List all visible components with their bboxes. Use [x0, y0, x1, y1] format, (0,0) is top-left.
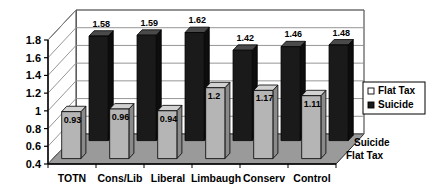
y-axis-tick-label: 1 [35, 105, 41, 117]
y-axis-tick-label: 0.4 [26, 158, 42, 170]
bar-side-face [177, 105, 182, 158]
depth-axis-label-flat-tax: Flat Tax [346, 150, 383, 161]
bar-value-label: 0.96 [112, 112, 130, 122]
bar-chart-3d: 0.40.60.811.21.41.61.81.581.591.621.421.… [0, 0, 443, 196]
y-axis-tick-label: 1.4 [26, 69, 42, 81]
x-axis-category-label: Liberal [151, 172, 186, 184]
bar-value-label: 1.42 [236, 33, 254, 43]
y-axis-tick-label: 0.8 [26, 123, 41, 135]
bar-side-face [225, 82, 230, 158]
x-axis-category-label: TOTN [58, 172, 86, 184]
legend-entry-label: Flat Tax [378, 85, 415, 96]
bar-value-label: 1.46 [284, 29, 302, 39]
bar-value-label: 1.48 [332, 28, 350, 38]
bar-front-face [233, 50, 252, 140]
legend-swatch-light-icon [368, 88, 374, 94]
bar-side-face [81, 106, 86, 158]
bar-value-label: 1.2 [208, 91, 221, 101]
bar-front-face [185, 33, 204, 141]
bar-side-face [321, 90, 326, 158]
bar-front-face [137, 35, 156, 140]
bar-value-label: 1.62 [188, 15, 206, 25]
bar-front-face [281, 47, 300, 141]
bar-side-face [129, 104, 134, 159]
y-axis-tick-label: 0.6 [26, 140, 41, 152]
bar-front-face [329, 45, 348, 141]
x-axis-category-label: Cons/Lib [98, 172, 143, 184]
bar-value-label: 1.11 [304, 99, 321, 109]
x-axis-category-label: Control [293, 172, 330, 184]
bar-suicide-control[interactable] [329, 40, 353, 141]
y-axis-tick-label: 1.6 [26, 52, 41, 64]
bar-value-label: 0.94 [160, 114, 178, 124]
bar-value-label: 1.17 [256, 93, 274, 103]
y-axis-tick-label: 1.2 [26, 87, 41, 99]
x-axis-category-label: Conserv [243, 172, 285, 184]
bar-value-label: 1.59 [140, 18, 158, 28]
legend-entry-label: Suicide [378, 99, 414, 110]
bar-value-label: 1.58 [92, 19, 110, 29]
depth-axis-label-suicide: Suicide [354, 137, 390, 148]
bar-value-label: 0.93 [64, 115, 82, 125]
y-axis-tick-label: 1.8 [26, 34, 41, 46]
bar-front-face [89, 36, 108, 141]
bar-side-face [348, 40, 353, 141]
bar-side-face [273, 85, 278, 159]
x-axis-category-label: Limbaugh [191, 172, 241, 184]
chart-container: 0.40.60.811.21.41.61.81.581.591.621.421.… [0, 0, 443, 196]
legend-swatch-dark-icon [368, 102, 374, 108]
legend: Flat TaxSuicide [363, 82, 425, 114]
